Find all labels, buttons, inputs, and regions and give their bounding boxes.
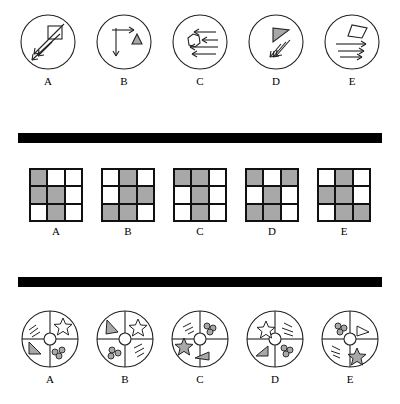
arrows-row: A B: [0, 12, 400, 88]
arrows-figure-c: [170, 12, 230, 72]
grid-figure-b: [101, 168, 155, 222]
option-label: E: [341, 225, 348, 238]
option-label: D: [271, 373, 279, 386]
option-label: A: [52, 225, 60, 238]
option-e-segments[interactable]: E: [319, 308, 381, 386]
option-label: B: [124, 225, 131, 238]
option-d-arrows[interactable]: D: [246, 12, 306, 88]
option-label: C: [196, 373, 203, 386]
option-e-grid[interactable]: E: [317, 168, 371, 238]
option-label: B: [120, 75, 127, 88]
option-c-arrows[interactable]: C: [170, 12, 230, 88]
option-label: A: [46, 373, 54, 386]
segments-figure-a: [19, 308, 81, 370]
option-label: D: [268, 225, 276, 238]
segments-figure-d: [244, 308, 306, 370]
arrows-row-panel: A B: [0, 12, 400, 88]
option-d-grid[interactable]: D: [245, 168, 299, 238]
segments-figure-e: [319, 308, 381, 370]
option-b-arrows[interactable]: B: [94, 12, 154, 88]
divider-bottom: [18, 277, 382, 287]
option-a-arrows[interactable]: A: [18, 12, 78, 88]
grid-figure-e: [317, 168, 371, 222]
option-b-segments[interactable]: B: [94, 308, 156, 386]
option-label: E: [349, 75, 356, 88]
circle-segments-row-panel: A: [0, 308, 400, 386]
option-b-grid[interactable]: B: [101, 168, 155, 238]
arrows-figure-d: [246, 12, 306, 72]
option-a-segments[interactable]: A: [19, 308, 81, 386]
option-label: E: [347, 373, 354, 386]
grid-figure-a: [29, 168, 83, 222]
option-a-grid[interactable]: A: [29, 168, 83, 238]
segments-figure-b: [94, 308, 156, 370]
option-label: D: [272, 75, 280, 88]
arrows-figure-a: [18, 12, 78, 72]
grid-figure-c: [173, 168, 227, 222]
option-d-segments[interactable]: D: [244, 308, 306, 386]
divider-top: [18, 133, 382, 143]
arrows-figure-b: [94, 12, 154, 72]
option-label: C: [196, 225, 203, 238]
option-c-grid[interactable]: C: [173, 168, 227, 238]
circle-segments-row: A: [0, 308, 400, 386]
grid-row-panel: A B C D: [0, 168, 400, 238]
grid-row: A B C D: [0, 168, 400, 238]
option-label: A: [44, 75, 52, 88]
segments-figure-c: [169, 308, 231, 370]
option-c-segments[interactable]: C: [169, 308, 231, 386]
arrows-figure-e: [322, 12, 382, 72]
option-label: B: [121, 373, 128, 386]
option-e-arrows[interactable]: E: [322, 12, 382, 88]
grid-figure-d: [245, 168, 299, 222]
option-label: C: [196, 75, 203, 88]
